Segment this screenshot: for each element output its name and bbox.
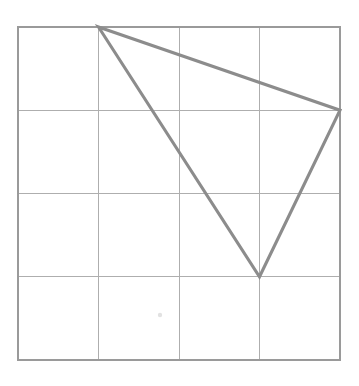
scan-speck-artifact: [158, 313, 162, 317]
grid-triangle-figure: Triangle on a 4 by 4 square grid: [0, 0, 359, 386]
figure-container: Triangle on a 4 by 4 square grid: [0, 0, 359, 386]
